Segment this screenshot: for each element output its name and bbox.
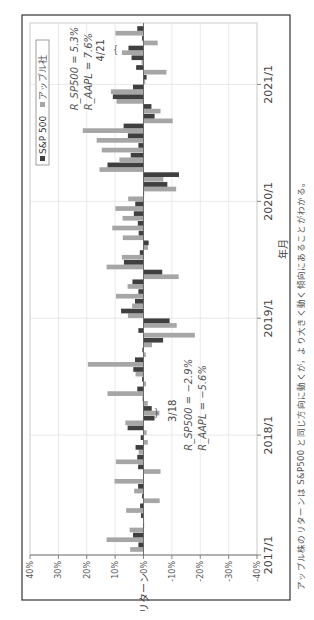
bar-sp500 — [144, 114, 155, 119]
bar-sp500 — [144, 182, 168, 187]
bar-sp500 — [136, 445, 144, 450]
bar-aapl — [111, 89, 144, 94]
bar-sp500 — [124, 124, 144, 129]
bar-aapl — [112, 226, 143, 231]
annotation-label-4-21: 4/21 — [95, 39, 106, 61]
bar-sp500 — [137, 455, 143, 460]
y-tick-label: -30% — [225, 561, 234, 582]
annotation-label-3-18: 3/18 — [167, 400, 178, 422]
bar-sp500 — [144, 416, 155, 421]
bar-sp500 — [107, 163, 143, 168]
bar-aapl — [117, 99, 144, 104]
y-axis-label: リターン — [139, 573, 150, 613]
x-axis-label: 年月 — [277, 239, 289, 259]
legend-label-aapl: アップル社 — [37, 55, 48, 100]
bar-aapl — [144, 41, 158, 46]
bar-sp500 — [138, 143, 143, 148]
y-tick-label: 30% — [54, 561, 63, 579]
annotation-brace: ︸ — [154, 408, 166, 418]
bar-aapl — [128, 313, 144, 318]
bar-aapl — [107, 265, 144, 270]
bar-aapl — [102, 148, 144, 153]
bar-sp500 — [113, 94, 144, 99]
bar-sp500 — [144, 338, 164, 343]
bar-aapl — [116, 459, 144, 464]
bar-sp500 — [138, 542, 143, 547]
bar-sp500 — [144, 240, 149, 245]
bar-sp500 — [132, 55, 144, 60]
bar-aapl — [123, 235, 144, 240]
bar-sp500 — [133, 367, 143, 372]
bar-sp500 — [139, 231, 144, 236]
bar-sp500 — [141, 435, 144, 440]
bar-aapl — [144, 333, 195, 338]
bar-aapl — [144, 109, 161, 114]
bar-aapl — [134, 489, 143, 494]
bar-aapl — [132, 304, 143, 309]
bar-sp500 — [140, 250, 144, 255]
y-tick-label: 0% — [140, 561, 149, 574]
y-tick-label: -10% — [168, 561, 177, 582]
bar-aapl — [122, 50, 144, 55]
bar-aapl — [144, 187, 177, 192]
y-tick-label: 20% — [83, 561, 92, 579]
bar-aapl — [119, 158, 143, 163]
bar-sp500 — [144, 270, 163, 275]
bar-aapl — [144, 177, 164, 182]
y-tick-label: -20% — [196, 561, 205, 582]
bar-sp500 — [128, 46, 143, 51]
legend-swatch-sp500 — [40, 156, 45, 161]
x-tick-label: 2017/1 — [262, 536, 275, 575]
bar-sp500 — [135, 357, 144, 362]
bar-aapl — [128, 284, 144, 289]
rotated-figure: 40%30%20%10%0%-10%-20%-30%-40%リターン2017/1… — [0, 0, 314, 620]
bar-aapl — [144, 430, 147, 435]
annotation-sp500-3-18: R_SP500 = −2.9% — [183, 359, 195, 451]
annotation-brace: ︷ — [107, 45, 118, 55]
bar-aapl — [144, 498, 160, 503]
bar-aapl — [123, 216, 144, 221]
bar-aapl — [125, 421, 143, 426]
bar-aapl — [88, 362, 144, 367]
bar-sp500 — [144, 104, 152, 109]
figure-caption: アップル株のリターンは S&P500 と同じ方向に動くが，より大きく動く傾向にあ… — [294, 178, 306, 590]
bar-aapl — [144, 245, 149, 250]
bar-sp500 — [138, 328, 143, 333]
figure: 40%30%20%10%0%-10%-20%-30%-40%リターン2017/1… — [0, 0, 314, 620]
outer-frame — [22, 15, 290, 600]
x-tick-label: 2020/1 — [262, 182, 275, 221]
legend-label-sp500: S&P 500 — [38, 116, 48, 154]
y-tick-label: 10% — [111, 561, 120, 579]
bar-chart: 40%30%20%10%0%-10%-20%-30%-40%リターン2017/1… — [0, 0, 314, 620]
bar-sp500 — [132, 279, 143, 284]
y-tick-label: -40% — [253, 561, 262, 582]
bar-aapl — [144, 343, 153, 348]
bar-sp500 — [133, 85, 143, 90]
bar-sp500 — [137, 26, 143, 31]
bar-aapl — [144, 274, 179, 279]
bar-aapl — [130, 528, 144, 533]
bar-aapl — [144, 70, 167, 75]
bar-sp500 — [133, 533, 143, 538]
bar-aapl — [107, 537, 144, 542]
bar-aapl — [144, 323, 177, 328]
bar-aapl — [139, 450, 144, 455]
bar-aapl — [144, 440, 148, 445]
bar-aapl — [130, 547, 143, 552]
bar-sp500 — [144, 172, 179, 177]
legend-swatch-aapl — [40, 102, 45, 107]
bar-sp500 — [144, 318, 170, 323]
bar-aapl — [83, 128, 144, 133]
x-tick-label: 2018/1 — [262, 416, 275, 455]
bar-sp500 — [128, 426, 144, 431]
bar-sp500 — [138, 221, 144, 226]
bar-sp500 — [121, 309, 143, 314]
bar-sp500 — [134, 211, 144, 216]
bar-sp500 — [144, 75, 147, 80]
annotation-aapl-4-21: R_AAPL = 7.6% — [83, 33, 95, 110]
bar-aapl — [115, 479, 144, 484]
bar-sp500 — [140, 503, 143, 508]
x-tick-label: 2019/1 — [262, 299, 275, 338]
bar-aapl — [136, 372, 144, 377]
bar-aapl — [115, 31, 143, 36]
